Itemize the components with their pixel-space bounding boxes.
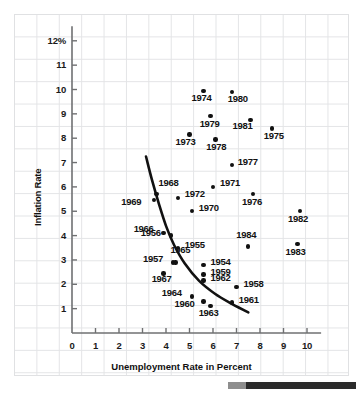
axes [72,26,321,333]
data-point-label: 1963 [199,307,219,318]
y-tick-label: 12% [24,35,66,46]
data-point [176,196,180,200]
data-point-label: 1957 [143,253,163,264]
data-point-label: 1961 [239,294,259,305]
data-point-label: 1965 [170,244,190,255]
data-point-label: 1977 [238,156,258,167]
y-tick-label: 3 [24,254,66,265]
data-point-label: 1980 [228,93,248,104]
y-tick-label: 2 [24,278,66,289]
y-tick-label: 9 [24,108,66,119]
data-point-label: 1960 [175,298,195,309]
y-tick-label: 4 [24,230,66,241]
y-tick-label: 10 [24,84,66,95]
data-point-label: 1981 [233,120,253,131]
data-point-label: 1971 [220,177,240,188]
data-point-label: 1958 [244,278,264,289]
data-point-label: 1966 [134,223,154,234]
data-point-label: 1982 [288,213,308,224]
data-point-label: 1970 [199,202,219,213]
data-point-label: 1979 [200,118,220,129]
footer-bar [228,382,356,389]
data-point [201,299,205,303]
data-point [201,272,205,276]
chart-page: 1954195519561957195819591960196119621963… [0,0,363,400]
data-point-label: 1984 [236,229,256,240]
footer-bar-dark-segment [246,382,356,389]
data-point [173,260,177,264]
data-point-label: 1964 [162,287,182,298]
data-point-label: 1968 [159,177,179,188]
data-point [169,233,173,237]
y-tick-label: 1 [24,303,66,314]
x-tick-label: 10 [292,340,322,351]
data-point-label: 1976 [242,196,262,207]
y-tick-label: 7 [24,157,66,168]
data-point-label: 1978 [206,141,226,152]
y-tick-label: 5 [24,205,66,216]
y-axis-title: Inflation Rate [32,168,43,225]
data-point-label: 1962 [211,272,231,283]
y-tick-label: 11 [24,59,66,70]
footer-bar-light-segment [228,382,246,389]
data-point-label: 1972 [185,188,205,199]
x-axis-title: Unemployment Rate in Percent [0,361,363,372]
data-point [190,294,194,298]
data-point-label: 1969 [121,196,141,207]
data-point-label: 1983 [286,246,306,257]
y-tick-label: 8 [24,132,66,143]
data-point [201,263,205,267]
data-point [230,163,234,167]
data-point-label: 1975 [264,130,284,141]
data-point-label: 1974 [192,92,212,103]
data-point-label: 1973 [176,136,196,147]
data-point [230,300,234,304]
y-tick-label: 6 [24,181,66,192]
data-point [234,285,238,289]
data-point [201,278,205,282]
data-point-label: 1967 [152,273,172,284]
